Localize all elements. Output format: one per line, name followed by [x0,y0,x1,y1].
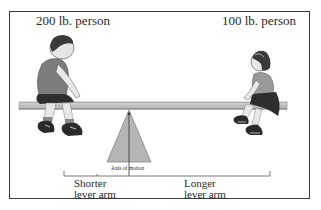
shorter-lever-arm-label: Shorter lever arm [74,178,116,200]
axis-of-motion-label: Axis of motion [111,165,144,171]
longer-label-line2: lever arm [184,189,226,200]
lever-arm-bracket [64,171,270,176]
left-weight-label: 200 lb. person [36,13,110,29]
right-weight-label: 100 lb. person [222,13,296,29]
seesaw-illustration [0,0,321,210]
boy-figure [36,35,82,136]
girl-figure [234,51,280,135]
pivot-point [128,113,131,116]
longer-lever-arm-label: Longer lever arm [184,178,226,200]
shorter-label-line2: lever arm [74,189,116,200]
